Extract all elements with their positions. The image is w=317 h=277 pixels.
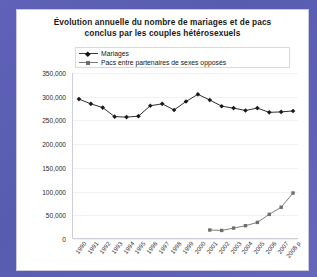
- data-point-marker: [207, 98, 212, 103]
- data-point-marker: [231, 106, 236, 111]
- chart-title-line-1: Évolution annuelle du nombre de mariages…: [54, 17, 272, 27]
- y-axis-tick-300000: 300,000: [42, 93, 66, 100]
- legend-line-mariages: [79, 53, 98, 54]
- x-axis-tick-1995: 1995: [133, 240, 147, 255]
- data-point-marker: [208, 228, 211, 231]
- data-point-marker: [77, 97, 82, 102]
- x-axis-tick-2005: 2005: [252, 240, 266, 255]
- data-point-marker: [255, 106, 260, 111]
- x-axis-labels: 1990199119921993199419951996199719981999…: [72, 240, 298, 277]
- x-axis-tick-1990: 1990: [74, 240, 88, 255]
- x-axis-tick-1997: 1997: [157, 240, 171, 255]
- data-point-marker: [244, 224, 247, 227]
- legend-line-pacs: [79, 62, 98, 63]
- x-axis-tick-2006: 2006: [264, 240, 278, 255]
- y-axis-tick-250000: 250,000: [42, 117, 66, 124]
- data-point-marker: [291, 191, 294, 194]
- data-point-marker: [279, 110, 284, 115]
- series-line-mariages: [79, 94, 293, 117]
- data-point-marker: [196, 92, 201, 97]
- chart-title-line-2: conclus par les couples hétérosexuels: [17, 28, 308, 39]
- data-point-marker: [243, 108, 248, 113]
- x-axis-tick-2000: 2000: [193, 240, 207, 255]
- data-series-layer: [73, 73, 299, 239]
- data-point-marker: [256, 221, 259, 224]
- y-axis-tick-0: 0: [62, 236, 66, 243]
- data-point-marker: [89, 102, 94, 107]
- y-axis-tick-150000: 150,000: [42, 164, 66, 171]
- x-axis-tick-2002: 2002: [216, 240, 230, 255]
- data-point-marker: [279, 206, 282, 209]
- legend-label-mariages: Mariages: [101, 49, 129, 58]
- y-axis-labels: 350,000300,000250,000200,000150,000100,0…: [17, 73, 69, 239]
- data-point-marker: [291, 109, 296, 114]
- data-point-marker: [232, 226, 235, 229]
- x-axis-tick-2003: 2003: [228, 240, 242, 255]
- data-point-marker: [268, 213, 271, 216]
- y-axis-tick-50000: 50,000: [46, 212, 66, 219]
- data-point-marker: [160, 102, 165, 107]
- x-axis-tick-1993: 1993: [109, 240, 123, 255]
- legend-label-pacs: Pacs entre partenaires de sexes opposés: [101, 58, 226, 67]
- x-axis-tick-1999: 1999: [181, 240, 195, 255]
- square-marker-icon: [86, 61, 90, 65]
- data-point-marker: [220, 229, 223, 232]
- x-axis-tick-1992: 1992: [97, 240, 111, 255]
- x-axis-tick-1991: 1991: [85, 240, 99, 255]
- data-point-marker: [267, 110, 272, 115]
- x-axis-tick-2001: 2001: [204, 240, 218, 255]
- chart-legend: Mariages Pacs entre partenaires de sexes…: [75, 47, 290, 68]
- y-axis-tick-350000: 350,000: [42, 70, 66, 77]
- data-point-marker: [124, 115, 129, 120]
- legend-item-mariages: Mariages: [78, 49, 287, 58]
- chart-panel: Évolution annuelle du nombre de mariages…: [16, 9, 309, 271]
- x-axis-tick-1994: 1994: [121, 240, 135, 255]
- plot-area: [72, 73, 298, 239]
- x-axis-tick-1998: 1998: [169, 240, 183, 255]
- x-axis-tick-1996: 1996: [145, 240, 159, 255]
- chart-title: Évolution annuelle du nombre de mariages…: [17, 17, 308, 39]
- x-axis-tick-2004: 2004: [240, 240, 254, 255]
- series-line-pacs: [210, 193, 293, 230]
- y-axis-tick-200000: 200,000: [42, 141, 66, 148]
- chart-screenshot: Évolution annuelle du nombre de mariages…: [0, 0, 317, 277]
- legend-item-pacs: Pacs entre partenaires de sexes opposés: [78, 58, 287, 67]
- diamond-marker-icon: [85, 51, 90, 56]
- data-point-marker: [219, 104, 224, 109]
- y-axis-tick-100000: 100,000: [42, 188, 66, 195]
